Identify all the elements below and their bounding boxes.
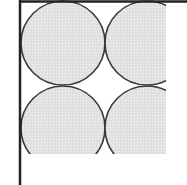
circles-group (21, 1, 187, 170)
circle-bottom-left (21, 86, 105, 170)
circle-bottom-right (105, 86, 187, 170)
circle-top-left (21, 1, 105, 85)
circle-packing-diagram (0, 0, 187, 185)
circle-top-right (105, 1, 187, 85)
diagram-canvas (0, 0, 187, 185)
